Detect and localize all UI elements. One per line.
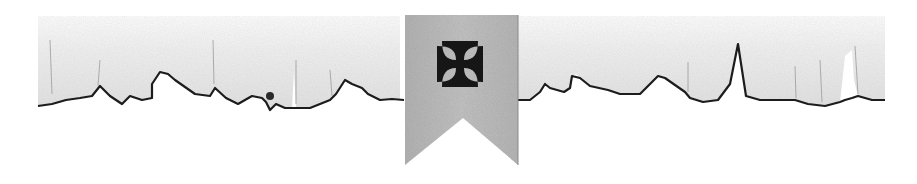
banner	[0, 0, 917, 184]
